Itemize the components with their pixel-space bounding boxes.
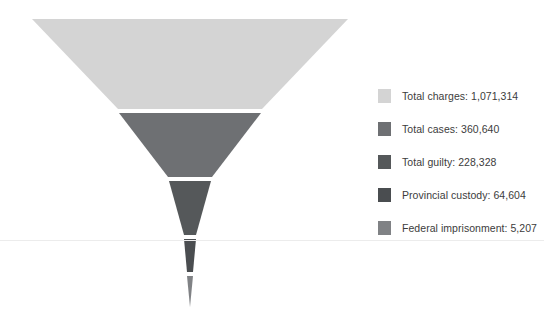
funnel-segment-federal-imprisonment[interactable] [187,276,193,307]
legend-item-label: Total cases: 360,640 [402,122,499,136]
horizontal-divider [0,240,544,241]
legend-swatch-icon [378,155,391,169]
legend-swatch-icon [378,89,391,103]
legend-item-federal-imprisonment[interactable]: Federal imprisonment: 5,207 [378,220,542,235]
chart-legend: Total charges: 1,071,314 Total cases: 36… [378,88,542,235]
legend-swatch-icon [378,188,391,202]
legend-item-provincial-custody[interactable]: Provincial custody: 64,604 [378,187,542,202]
legend-item-total-charges[interactable]: Total charges: 1,071,314 [378,88,542,103]
footer-ghost-text [6,306,206,320]
funnel-segment-total-guilty[interactable] [169,181,211,235]
funnel-chart: Total charges: 1,071,314 Total cases: 36… [0,0,544,325]
legend-item-label: Provincial custody: 64,604 [402,188,526,202]
funnel-segment-total-cases[interactable] [119,113,261,177]
legend-swatch-icon [378,221,391,235]
funnel-segment-total-charges[interactable] [32,19,348,109]
legend-swatch-icon [378,122,391,136]
legend-item-total-guilty[interactable]: Total guilty: 228,328 [378,154,542,169]
legend-item-label: Federal imprisonment: 5,207 [402,221,537,235]
legend-item-label: Total charges: 1,071,314 [402,89,518,103]
funnel-segment-provincial-custody[interactable] [184,239,196,272]
legend-item-label: Total guilty: 228,328 [402,155,496,169]
legend-item-total-cases[interactable]: Total cases: 360,640 [378,121,542,136]
